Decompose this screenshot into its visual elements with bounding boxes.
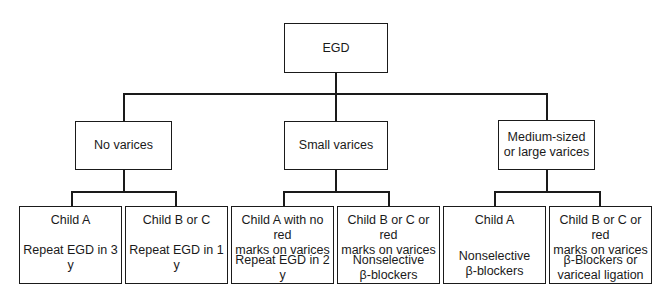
connector-branch-0-split: [71, 191, 176, 193]
leaf-large-varices-child-bc-red: Child B or C or red marks on varices β-B…: [549, 206, 652, 284]
leaf-action-line1: Nonselective: [459, 249, 531, 264]
leaf-condition: Child A: [475, 213, 515, 228]
connector-branch-1: [335, 93, 337, 121]
connector-branch-0: [123, 93, 125, 121]
leaf-small-varices-child-a: Child A with no red marks on varices Rep…: [231, 206, 334, 284]
connector-root-down: [335, 72, 337, 94]
branch-label-line1: Medium-sized: [508, 130, 586, 145]
connector-branch-1-split: [283, 191, 389, 193]
leaf-large-varices-child-a: Child A Nonselective β-blockers: [443, 206, 546, 284]
leaf-action-line1: β-Blockers or: [564, 253, 638, 268]
connector-leaf-0-1: [175, 191, 177, 206]
leaf-action-line2: β-blockers: [360, 268, 418, 283]
connector-leaf-0-0: [71, 191, 73, 206]
root-node-egd: EGD: [284, 23, 388, 73]
leaf-action-line2: β-blockers: [466, 264, 524, 279]
branch-node-no-varices: No varices: [75, 121, 172, 170]
branch-label: Small varices: [299, 138, 373, 153]
branch-label: No varices: [94, 138, 153, 153]
branch-label-line2: or large varices: [504, 145, 589, 160]
connector-leaf-1-0: [283, 191, 285, 206]
leaf-action: Repeat EGD in 2 y: [232, 253, 333, 283]
leaf-condition: Child B or C: [143, 213, 210, 228]
leaf-condition-line1: Child B or C or red: [550, 213, 651, 243]
leaf-action-line2: variceal ligation: [557, 268, 643, 283]
connector-leaf-1-1: [388, 191, 390, 206]
connector-branch-0-down: [123, 169, 125, 192]
leaf-condition: Child A: [51, 213, 91, 228]
connector-branch-2: [546, 93, 548, 121]
leaf-no-varices-child-a: Child A Repeat EGD in 3 y: [19, 206, 122, 284]
connector-branch-2-split: [494, 191, 600, 193]
connector-branch-1-down: [335, 169, 337, 192]
branch-node-medium-large-varices: Medium-sized or large varices: [498, 120, 595, 170]
leaf-condition-line1: Child B or C or red: [338, 213, 439, 243]
connector-leaf-2-1: [599, 191, 601, 206]
leaf-condition-line1: Child A with no red: [232, 213, 333, 243]
root-label: EGD: [322, 41, 349, 56]
leaf-small-varices-child-bc-red: Child B or C or red marks on varices Non…: [337, 206, 440, 284]
connector-leaf-2-0: [494, 191, 496, 206]
branch-node-small-varices: Small varices: [284, 121, 388, 170]
leaf-action: Repeat EGD in 1 y: [126, 243, 227, 273]
leaf-action-line1: Nonselective: [353, 253, 425, 268]
leaf-action: Repeat EGD in 3 y: [20, 243, 121, 273]
leaf-no-varices-child-bc: Child B or C Repeat EGD in 1 y: [125, 206, 228, 284]
connector-branch-2-down: [546, 169, 548, 192]
